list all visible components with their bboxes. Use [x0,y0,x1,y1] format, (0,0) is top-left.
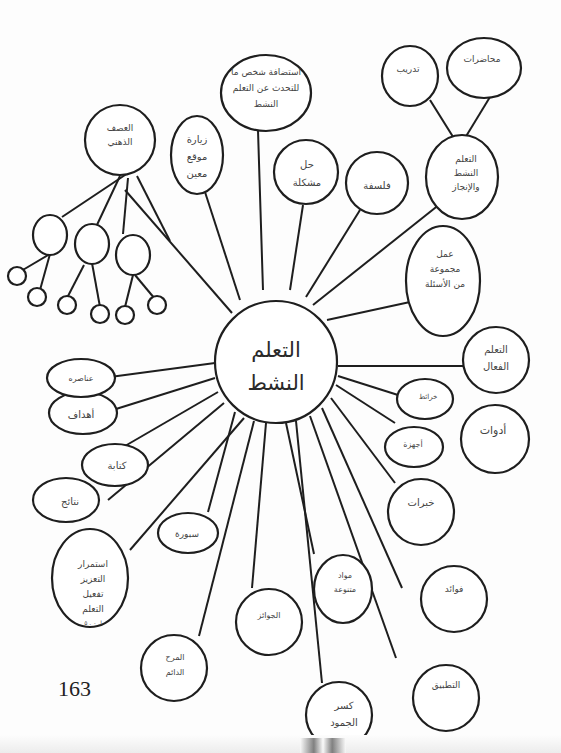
svg-text:زيارة: زيارة [187,134,208,145]
svg-text:التعلم: التعلم [82,604,103,615]
svg-text:تفعيل: تفعيل [83,589,104,599]
node-goals: أهداف [49,392,117,434]
svg-text:أجهزة: أجهزة [403,439,422,449]
svg-text:استضافة شخص ما: استضافة شخص ما [231,67,301,77]
node-philosophy: فلسفة [346,152,408,214]
node-ongoing-fun: المرح الدائم [141,635,207,701]
svg-text:التعلم: التعلم [251,338,301,363]
node-tools: أدوات [461,405,529,473]
node-application: التطبيق [413,665,479,731]
mind-map-diagram: التعلم النشط استضافة شخص ما للتحدث عن ال… [0,0,561,753]
node-reinforcement: استمرار التعزيز تفعيل التعلم ا. ٠ . ٥ [52,529,128,627]
node-results: نتائج [33,478,99,522]
node-brainstorm: العصف الذهني [85,105,155,175]
node-guest: استضافة شخص ما للتحدث عن التعلم النشط [221,55,311,131]
node-elements: عناصره [47,359,115,397]
binding-spine [300,738,346,753]
svg-text:موقع: موقع [187,151,208,163]
svg-text:استمرار: استمرار [77,559,108,569]
node-site-visit: زيارة موقع معين [171,116,223,194]
node-whiteboard: سبورة [158,513,218,553]
svg-text:للتحدث عن التعلم: للتحدث عن التعلم [233,83,300,94]
svg-text:التطبيق: التطبيق [432,680,460,690]
node-active-achievement: التعلم النشط والإنجاز [426,135,498,219]
node-benefits: فوائد [421,566,487,632]
svg-text:من الأسئلة: من الأسئلة [425,278,465,289]
svg-text:النشط: النشط [247,371,304,395]
svg-text:نتائج: نتائج [61,496,79,508]
svg-text:حل: حل [300,159,314,170]
svg-text:فلسفة: فلسفة [363,180,391,191]
node-training: تدريب [382,46,438,106]
center-node: التعلم النشط [215,301,337,423]
node-devices: أجهزة [385,427,443,467]
node-effective-learning: التعلم الفعال [463,327,529,393]
svg-text:خبرات: خبرات [408,497,435,508]
svg-text:معين: معين [187,168,208,179]
svg-text:النشط: النشط [254,99,279,109]
node-maps: خرائط [397,379,453,419]
svg-text:التعلم: التعلم [455,154,476,165]
brainstorm-subtree [8,215,166,324]
svg-text:كسر: كسر [333,700,353,711]
svg-text:مجموعة: مجموعة [430,264,461,274]
page-number: 163 [58,676,91,702]
svg-text:كتابة: كتابة [108,460,127,471]
svg-text:النشط: النشط [454,168,479,178]
svg-text:تدريب: تدريب [397,64,420,74]
mind-map-page: التعلم النشط استضافة شخص ما للتحدث عن ال… [0,0,561,753]
node-writing: كتابة [82,444,148,486]
svg-text:العصف: العصف [107,123,134,133]
svg-text:والإنجاز: والإنجاز [451,182,479,193]
svg-text:الجوائز: الجوائز [257,611,281,620]
svg-text:الذهني: الذهني [108,137,133,147]
svg-text:الفعال: الفعال [483,361,509,372]
svg-text:عمل: عمل [436,249,453,259]
svg-text:الدائم: الدائم [166,668,185,677]
svg-text:سبورة: سبورة [175,529,199,539]
svg-text:ا. ٠ . ٥: ا. ٠ . ٥ [84,619,102,626]
svg-text:مشكلة: مشكلة [293,177,321,188]
svg-text:عناصره: عناصره [68,374,93,383]
page-bottom-shadow [0,735,561,753]
svg-text:أهداف: أهداف [68,408,95,420]
node-experiences: خبرات [388,479,454,545]
svg-text:محاضرات: محاضرات [464,54,501,64]
svg-text:مواد: مواد [338,571,352,580]
node-lectures: محاضرات [447,38,521,98]
svg-text:فوائد: فوائد [445,584,464,594]
svg-text:خرائط: خرائط [419,393,438,401]
node-varied-materials: مواد متنوعة [314,555,372,623]
svg-text:أدوات: أدوات [480,423,507,437]
node-question-group: عمل مجموعة من الأسئلة [406,226,480,336]
svg-text:الجمود: الجمود [330,717,358,728]
node-problem-solving: حل مشكلة [274,140,338,204]
svg-text:التعزيز: التعزيز [80,574,106,584]
svg-text:المرح: المرح [166,653,185,662]
svg-text:متنوعة: متنوعة [334,585,356,594]
svg-text:التعلم: التعلم [484,344,508,356]
node-prizes: الجوائز [236,589,302,655]
